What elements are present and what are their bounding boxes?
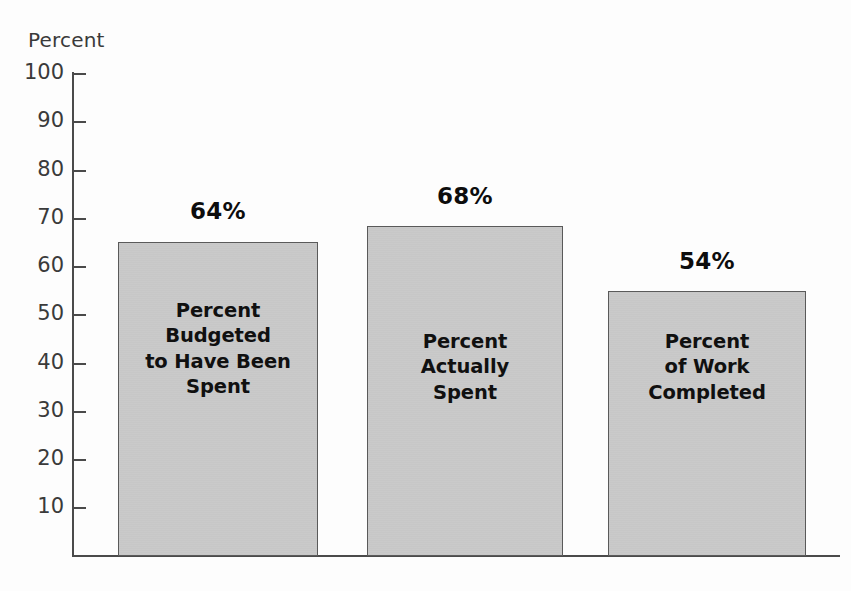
y-axis-tick-50 — [72, 314, 86, 316]
y-axis-tick-30 — [72, 411, 86, 413]
y-axis-tick-label-100: 100 — [6, 62, 64, 83]
y-axis-tick-40 — [72, 363, 86, 365]
y-axis-tick-label-10: 10 — [6, 496, 64, 517]
bar-2-caption-line-3: Spent — [368, 380, 562, 405]
y-axis-tick-label-50: 50 — [6, 303, 64, 324]
y-axis-tick-label-30: 30 — [6, 400, 64, 421]
bar-1-caption-line-4: Spent — [119, 374, 317, 399]
y-axis-tick-label-70: 70 — [6, 207, 64, 228]
y-axis-tick-10 — [72, 507, 86, 509]
y-axis-tick-80 — [72, 170, 86, 172]
y-axis-tick-label-20: 20 — [6, 448, 64, 469]
y-axis-tick-20 — [72, 459, 86, 461]
bar-2-caption-line-1: Percent — [368, 329, 562, 354]
bar-value-label-2: 68% — [367, 185, 563, 208]
y-axis-tick-label-90: 90 — [6, 110, 64, 131]
bar-value-label-1: 64% — [118, 200, 318, 223]
bar-3-caption-line-2: of Work — [609, 354, 805, 379]
y-axis-title: Percent — [28, 28, 105, 52]
bar-1-caption-line-1: Percent — [119, 298, 317, 323]
y-axis-tick-label-80: 80 — [6, 159, 64, 180]
bar-3-caption: Percent of Work Completed — [609, 329, 805, 405]
y-axis-tick-70 — [72, 218, 86, 220]
bar-1-caption-line-2: Budgeted — [119, 323, 317, 348]
bar-3[interactable]: Percent of Work Completed — [608, 291, 806, 556]
y-axis-tick-90 — [72, 121, 86, 123]
bar-value-label-3: 54% — [608, 250, 806, 273]
y-axis-tick-label-40: 40 — [6, 352, 64, 373]
bar-1-caption-line-3: to Have Been — [119, 349, 317, 374]
bar-1-caption: Percent Budgeted to Have Been Spent — [119, 298, 317, 399]
bar-2-caption-line-2: Actually — [368, 354, 562, 379]
bar-2-caption: Percent Actually Spent — [368, 329, 562, 405]
bar-chart: Percent 100 90 80 70 60 50 40 30 20 10 6… — [0, 0, 851, 591]
y-axis-tick-100 — [72, 73, 86, 75]
bar-1[interactable]: Percent Budgeted to Have Been Spent — [118, 242, 318, 556]
bar-3-caption-line-3: Completed — [609, 380, 805, 405]
y-axis-tick-60 — [72, 266, 86, 268]
bar-3-caption-line-1: Percent — [609, 329, 805, 354]
y-axis-tick-label-60: 60 — [6, 255, 64, 276]
bar-2[interactable]: Percent Actually Spent — [367, 226, 563, 556]
